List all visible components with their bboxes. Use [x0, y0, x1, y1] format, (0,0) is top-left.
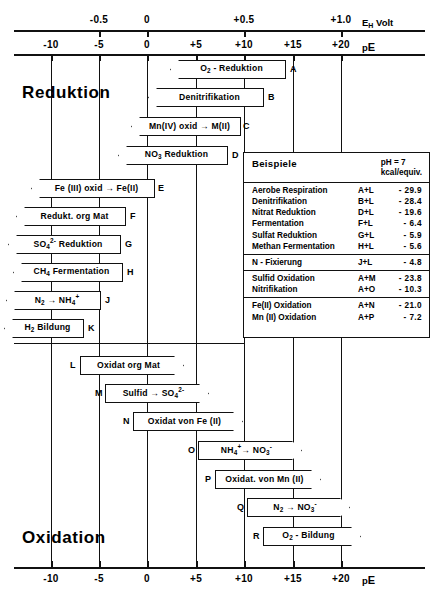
axis-tick-label: +5	[190, 39, 202, 50]
axis-tick	[341, 561, 343, 568]
process-box-label: O2 - Bildung	[264, 531, 360, 541]
process-box-O[interactable]: NH4+→ NO3-	[198, 441, 302, 460]
axis-tick	[99, 561, 101, 568]
process-box-key-O: O	[188, 441, 195, 460]
process-box-K[interactable]: H2 Bildung	[4, 319, 84, 338]
legend-row-name: Fermentation	[252, 218, 358, 229]
process-box-label: Sulfid → SO42-	[106, 387, 208, 399]
legend-energy-unit: kcal/equiv.	[381, 168, 422, 178]
legend-row: NitrifikationA+O- 10.3	[244, 284, 429, 295]
process-box-P[interactable]: Oxidat. von Mn (II)	[215, 470, 321, 489]
process-box-label: Fe (III) oxid → Fe(II)	[32, 184, 154, 193]
process-box-label: SO42- Reduktion	[9, 238, 120, 250]
axis-tick-label: 0	[144, 573, 150, 584]
legend-row-code: B+L	[358, 196, 388, 207]
axis-tick	[99, 30, 101, 37]
legend-ph: pH = 7	[381, 158, 422, 168]
process-box-label: Redukt. org Mat	[17, 212, 125, 221]
legend-row-name: N - Fixierung	[252, 257, 358, 268]
legend-row: Methan FermentationH+L- 5.6	[244, 241, 429, 252]
process-box-L[interactable]: Oxidat org Mat	[80, 356, 184, 375]
legend-row-name: Denitrifikation	[252, 196, 358, 207]
axis-tick-label: 0	[144, 39, 150, 50]
legend-row-value: - 10.3	[388, 284, 422, 295]
legend-header: Beispiele pH = 7 kcal/equiv.	[244, 153, 429, 183]
gridline	[51, 56, 52, 567]
oxidation-caption: Oxidation	[22, 528, 106, 548]
axis-tick-label: 0	[144, 14, 150, 25]
process-box-label: Oxidat org Mat	[81, 361, 183, 370]
axis-tick-label: +15	[284, 39, 302, 50]
legend-group: N - FixierungJ+L- 4.8	[244, 254, 429, 270]
legend-panel: Beispiele pH = 7 kcal/equiv. Aerobe Resp…	[243, 152, 430, 338]
top-axis-unit-label: EH Volt	[362, 17, 393, 29]
legend-group: Fe(II) OxidationA+N- 21.0Mn (II) Oxidati…	[244, 297, 429, 324]
legend-row-code: A+P	[358, 312, 388, 323]
process-box-key-M: M	[95, 384, 103, 403]
process-box-H[interactable]: CH4 Fermentation	[13, 263, 123, 282]
axis-tick	[196, 561, 198, 568]
legend-row-value: - 5.9	[388, 230, 422, 241]
legend-row-value: - 29.9	[388, 185, 422, 196]
legend-row-name: Sulfid Oxidation	[252, 273, 358, 284]
process-box-key-Q: Q	[237, 498, 244, 517]
process-box-key-F: F	[130, 207, 136, 226]
axis-tick	[244, 30, 246, 37]
axis-tick-label: +10	[235, 573, 253, 584]
process-box-C[interactable]: Mn(IV) oxid → M(II)	[131, 117, 241, 136]
legend-body: Aerobe RespirationA+L- 29.9Denitrifikati…	[244, 183, 429, 325]
legend-row-name: Methan Fermentation	[252, 241, 358, 252]
legend-row: Aerobe RespirationA+L- 29.9	[244, 185, 429, 196]
upper-pe-axis-line	[14, 54, 425, 56]
axis-tick-label: -0.5	[90, 14, 108, 25]
legend-row-code: H+L	[358, 241, 388, 252]
process-box-key-R: R	[253, 527, 260, 546]
axis-tick-label: +10	[235, 39, 253, 50]
process-box-key-K: K	[88, 319, 95, 338]
legend-row-value: - 28.4	[388, 196, 422, 207]
legend-group: Aerobe RespirationA+L- 29.9Denitrifikati…	[244, 183, 429, 254]
legend-row: N - FixierungJ+L- 4.8	[244, 257, 429, 268]
process-box-label: Oxidat von Fe (II)	[134, 417, 242, 426]
process-box-E[interactable]: Fe (III) oxid → Fe(II)	[31, 179, 155, 198]
legend-row: FermentationF+L- 6.4	[244, 218, 429, 229]
axis-tick-label: +20	[332, 39, 350, 50]
process-box-G[interactable]: SO42- Reduktion	[8, 235, 121, 254]
legend-row: DenitrifikationB+L- 28.4	[244, 196, 429, 207]
process-box-key-G: G	[125, 235, 132, 254]
legend-row-name: Mn (II) Oxidation	[252, 312, 358, 323]
process-box-J[interactable]: N2 → NH4+	[6, 291, 101, 310]
process-box-label: Denitrifikation	[149, 93, 263, 102]
axis-tick-label: +0.5	[234, 14, 255, 25]
axis-tick	[147, 561, 149, 568]
process-box-key-L: L	[70, 356, 76, 375]
legend-row-code: D+L	[358, 207, 388, 218]
upper-pe-unit-label: pE	[362, 41, 375, 53]
process-box-B[interactable]: Denitrifikation	[148, 88, 264, 107]
process-box-M[interactable]: Sulfid → SO42-	[105, 384, 209, 403]
redox-divider	[14, 343, 244, 344]
legend-row-value: - 23.8	[388, 273, 422, 284]
process-box-N[interactable]: Oxidat von Fe (II)	[133, 412, 243, 431]
process-box-key-B: B	[268, 88, 275, 107]
process-box-Q[interactable]: N2 → NO3-	[247, 498, 350, 517]
process-box-D[interactable]: NO3 Reduktion	[118, 146, 228, 165]
legend-row-name: Nitrifikation	[252, 284, 358, 295]
process-box-F[interactable]: Redukt. org Mat	[16, 207, 126, 226]
axis-tick-label: -5	[94, 39, 104, 50]
process-box-R[interactable]: O2 - Bildung	[263, 527, 361, 546]
reduction-caption: Reduktion	[22, 83, 111, 103]
axis-tick	[147, 30, 149, 37]
legend-row-value: - 21.0	[388, 300, 422, 311]
process-box-A[interactable]: O2 - Reduktion	[170, 60, 286, 79]
legend-row-code: A+N	[358, 300, 388, 311]
process-box-label: Oxidat. von Mn (II)	[216, 475, 320, 484]
legend-row: Mn (II) OxidationA+P- 7.2	[244, 312, 429, 323]
legend-row-name: Nitrat Reduktion	[252, 207, 358, 218]
legend-group: Sulfid OxidationA+M- 23.8NitrifikationA+…	[244, 270, 429, 297]
process-box-key-D: D	[232, 146, 239, 165]
process-box-key-N: N	[123, 412, 130, 431]
legend-row-name: Sulfat Reduktion	[252, 230, 358, 241]
legend-row-code: F+L	[358, 218, 388, 229]
axis-tick	[244, 561, 246, 568]
